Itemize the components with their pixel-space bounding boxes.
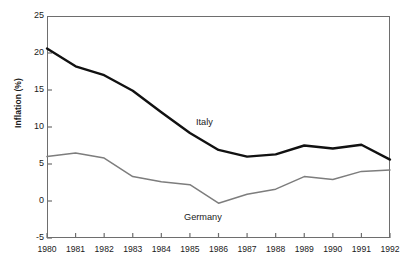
series-label-germany: Germany — [184, 212, 222, 222]
inflation-line-chart: Inflation (%) -50510152025 1980198119821… — [0, 0, 416, 271]
series-label-italy: Italy — [196, 117, 213, 127]
x-axis-tick-labels: 1980198119821983198419851986198719881989… — [0, 0, 416, 271]
x-tick-label: 1992 — [370, 244, 410, 254]
